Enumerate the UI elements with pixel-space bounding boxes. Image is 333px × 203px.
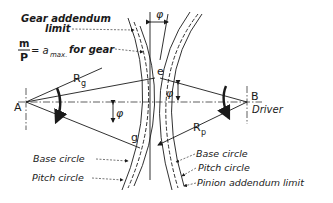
label-b: B [251, 90, 259, 103]
label-pitch-circle-left: Pitch circle [32, 172, 84, 183]
ratio-denominator: P [20, 51, 28, 64]
label-rp: R [193, 121, 201, 134]
leader-pitch-left [92, 178, 123, 180]
leader-gear-addendum [72, 29, 134, 30]
leader-base-left [96, 159, 128, 161]
label-a: A [14, 101, 22, 114]
label-phi-top: φ [156, 8, 164, 21]
label-rp-sub: p [201, 128, 206, 137]
ratio-numerator: m [19, 38, 29, 49]
label-base-circle-right: Base circle [196, 148, 248, 159]
leader-pitch-right [182, 168, 196, 176]
label-pitch-circle-right: Pitch circle [198, 162, 250, 173]
label-e: e [157, 65, 164, 78]
leader-pinion-addendum [184, 183, 196, 186]
line-a-to-e [26, 78, 155, 102]
pinion-addendum-arc [172, 14, 202, 186]
label-driver: Driver [252, 104, 284, 115]
label-pinion-addendum-limit: Pinion addendum limit [197, 177, 305, 188]
ratio-sub: max. [50, 51, 67, 59]
ratio-tail: for gear [69, 44, 115, 55]
label-limit: limit [45, 23, 72, 34]
gear-rotation-arrow [56, 88, 60, 122]
gear-addendum-arc [122, 18, 143, 190]
label-rg: R [73, 72, 81, 85]
pinion-pitch-arc [166, 14, 198, 188]
radius-rg [26, 68, 102, 102]
label-phi-left: φ [116, 107, 124, 120]
gear-base-arc [134, 26, 155, 186]
label-g: g [131, 131, 138, 144]
label-rg-sub: g [81, 79, 86, 88]
gear-diagram: Gear addendum limit m P = a max. for gea… [0, 0, 333, 203]
leader-base-right [176, 154, 195, 162]
label-base-circle-left: Base circle [33, 153, 85, 164]
gear-pitch-arc [128, 22, 149, 188]
ratio-rhs: = a [31, 45, 49, 56]
leader-ratio [115, 49, 143, 52]
label-phi-right: φ [166, 87, 174, 100]
